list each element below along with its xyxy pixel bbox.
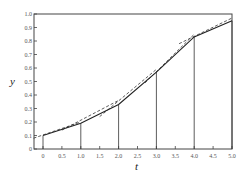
y-tick-label: 0.6 (25, 65, 33, 71)
y-tick-label: 0 (29, 146, 32, 152)
y-tick-label: 0.2 (25, 119, 33, 125)
y-tick-label: 0.5 (25, 79, 33, 85)
x-tick-label: 3.0 (153, 153, 161, 159)
dashed-tangent-lines (34, 18, 232, 138)
y-tick-label: 0.4 (25, 92, 33, 98)
tangent-segment (179, 18, 232, 44)
x-tick-label: 1.0 (77, 153, 85, 159)
chart: 00.10.20.30.40.50.60.70.80.91.0 00.51.01… (0, 0, 245, 174)
tangent-segment (34, 122, 81, 138)
x-tick-label: 0.5 (58, 153, 66, 159)
x-tick-label: 4.5 (209, 153, 217, 159)
vertical-ordinate-lines (43, 21, 232, 149)
y-tick-label: 1.0 (25, 11, 33, 17)
x-axis-ticks: 00.51.01.52.02.53.03.54.04.55.0 (42, 146, 236, 159)
y-tick-label: 0.1 (25, 133, 33, 139)
x-axis-label: t (135, 160, 139, 172)
x-tick-label: 5.0 (228, 153, 236, 159)
y-axis-label: y (9, 75, 15, 87)
y-tick-label: 0.7 (25, 52, 33, 58)
tangent-segment (62, 100, 119, 130)
x-tick-label: 1.5 (96, 153, 104, 159)
x-tick-label: 0 (42, 153, 45, 159)
x-tick-label: 4.0 (190, 153, 198, 159)
solution-polyline (43, 21, 232, 136)
solid-curve (43, 21, 232, 136)
y-tick-label: 0.8 (25, 38, 33, 44)
y-tick-label: 0.9 (25, 25, 33, 31)
y-axis-ticks: 00.10.20.30.40.50.60.70.80.91.0 (25, 11, 38, 152)
x-tick-label: 3.5 (172, 153, 180, 159)
y-tick-label: 0.3 (25, 106, 33, 112)
x-tick-label: 2.5 (134, 153, 142, 159)
x-tick-label: 2.0 (115, 153, 123, 159)
